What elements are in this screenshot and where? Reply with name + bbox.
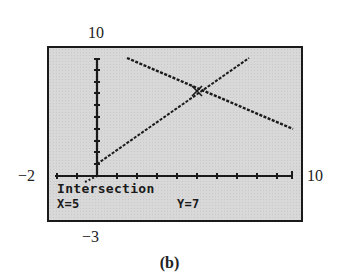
figure-caption: (b) xyxy=(0,254,339,272)
series-line-decreasing xyxy=(127,58,293,129)
axis-ticks xyxy=(57,59,292,179)
xmax-label: 10 xyxy=(307,167,323,185)
ymax-label: 10 xyxy=(88,24,104,42)
y-readout: Y=7 xyxy=(177,197,200,211)
axes xyxy=(55,58,293,176)
status-title: Intersection xyxy=(57,181,155,196)
ymin-label: −3 xyxy=(82,228,99,246)
x-readout: X=5 xyxy=(57,197,80,211)
xmin-label: −2 xyxy=(18,167,35,185)
series-line-increasing xyxy=(97,58,249,164)
calculator-screen: Intersection X=5 Y=7 xyxy=(47,46,303,222)
